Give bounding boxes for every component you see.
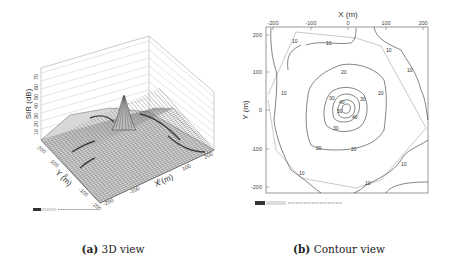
- contour-plot: X (m) -200 -100 0 100 200 200 100 0 -100…: [226, 0, 452, 240]
- svg-text:30: 30: [33, 113, 39, 119]
- caption-3d-view: (a) 3D view: [0, 243, 226, 255]
- x-axis-label: X (m): [338, 10, 358, 19]
- panel-3d-view: 10 20 30 40 50 60 70 SIR (dB) 200 100 0 …: [0, 0, 226, 268]
- svg-text:20: 20: [341, 69, 347, 75]
- svg-text:50: 50: [33, 94, 39, 100]
- y-axis-label: Y (m): [241, 100, 250, 120]
- svg-text:-200: -200: [267, 20, 278, 26]
- svg-text:10: 10: [299, 170, 305, 176]
- svg-text:50: 50: [337, 108, 343, 114]
- svg-text:10: 10: [292, 38, 298, 44]
- svg-text:30: 30: [360, 96, 366, 102]
- svg-text:10: 10: [281, 90, 287, 96]
- svg-text:-100: -100: [305, 20, 316, 26]
- y-axis-ticks: 200 100 0 -100 -200: [251, 32, 262, 190]
- svg-text:40: 40: [33, 103, 39, 109]
- z-axis-ticks: 10 20 30 40 50 60 70: [33, 74, 39, 135]
- svg-text:10: 10: [386, 47, 392, 53]
- svg-text:200: 200: [36, 144, 47, 155]
- svg-text:30: 30: [329, 95, 335, 101]
- svg-text:-200: -200: [251, 184, 262, 190]
- svg-text:20: 20: [351, 146, 357, 152]
- caption-contour-view: (b) Contour view: [226, 243, 452, 255]
- panel-contour-view: X (m) -200 -100 0 100 200 200 100 0 -100…: [226, 0, 452, 268]
- svg-text:10: 10: [33, 129, 39, 135]
- svg-text:60: 60: [33, 84, 39, 90]
- x-axis-ticks: -200 -100 0 100 200: [267, 20, 427, 26]
- svg-text:20: 20: [378, 90, 384, 96]
- svg-text:100: 100: [49, 158, 60, 169]
- svg-text:70: 70: [33, 74, 39, 80]
- svg-text:0: 0: [346, 20, 349, 26]
- svg-text:0: 0: [259, 107, 262, 113]
- svg-text:20: 20: [33, 121, 39, 127]
- svg-text:-100: -100: [251, 146, 262, 152]
- svg-text:30: 30: [333, 125, 339, 131]
- plot-footer-stamp: [33, 208, 98, 211]
- svg-text:40: 40: [339, 99, 345, 105]
- svg-text:20: 20: [316, 145, 322, 151]
- svg-text:10: 10: [326, 40, 332, 46]
- plot-footer-stamp: [255, 201, 342, 205]
- svg-text:10: 10: [365, 180, 371, 186]
- svg-text:100: 100: [381, 20, 390, 26]
- svg-text:200: 200: [418, 20, 427, 26]
- svg-text:40: 40: [352, 114, 358, 120]
- svg-text:10: 10: [407, 67, 413, 73]
- svg-text:100: 100: [253, 69, 262, 75]
- surface-plot-3d: 10 20 30 40 50 60 70 SIR (dB) 200 100 0 …: [0, 0, 226, 240]
- svg-text:200: 200: [253, 32, 262, 38]
- z-axis-label: SIR (dB): [24, 88, 33, 119]
- svg-text:10: 10: [401, 161, 407, 167]
